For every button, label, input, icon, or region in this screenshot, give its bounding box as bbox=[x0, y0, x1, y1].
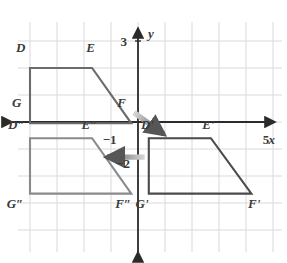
y-axis-label: y bbox=[148, 27, 154, 40]
vertex-label-G: G bbox=[12, 96, 21, 109]
y-tick-label-minus2: −2 bbox=[116, 157, 130, 170]
vertex-label-F: F bbox=[117, 96, 126, 109]
y-tick-label-3: 3 bbox=[121, 35, 128, 48]
vertex-label-D: D bbox=[16, 41, 25, 54]
trapezoid-D-prime-E-prime-F-prime-G-prime bbox=[149, 138, 252, 193]
vertex-label-F-prime: F″ bbox=[115, 197, 131, 210]
vertex-label-G-prime: G' bbox=[136, 197, 149, 210]
vertex-label-D-prime: D' bbox=[141, 118, 154, 131]
vertex-label-E-prime: E″ bbox=[81, 118, 97, 131]
grid-lines bbox=[18, 22, 282, 252]
axes bbox=[12, 28, 275, 252]
vertex-label-E: E bbox=[86, 41, 95, 54]
x-axis-label: x bbox=[269, 133, 276, 146]
vertex-label-D-prime: D″ bbox=[8, 118, 25, 131]
vertex-label-E-prime: E' bbox=[202, 118, 214, 131]
coordinate-plane-figure: DEFGD'E'F'G'D″E″F″G″yx3−2−15 bbox=[0, 0, 287, 263]
vertex-label-F-prime: F' bbox=[248, 197, 260, 210]
vertex-label-G-prime: G″ bbox=[7, 197, 24, 210]
x-tick-label-minus1: −1 bbox=[103, 133, 117, 146]
x-tick-label-5: 5 bbox=[263, 133, 270, 146]
